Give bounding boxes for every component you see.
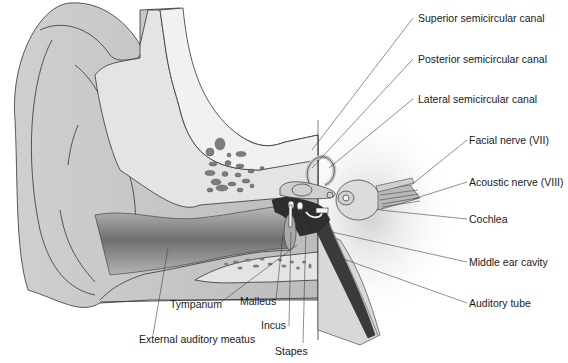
label-acoustic-nerve: Acoustic nerve (VIII) [469,176,564,188]
label-cochlea: Cochlea [469,213,508,225]
label-superior-semicircular-canal: Superior semicircular canal [418,12,545,24]
label-facial-nerve: Facial nerve (VII) [469,134,549,146]
label-lateral-semicircular-canal: Lateral semicircular canal [418,93,537,105]
label-malleus: Malleus [240,295,276,307]
label-auditory-tube: Auditory tube [469,297,531,309]
label-middle-ear-cavity: Middle ear cavity [469,256,548,268]
label-incus: Incus [261,319,286,331]
label-stapes: Stapes [275,345,308,357]
cochlea-shape [336,180,380,220]
label-external-auditory-meatus: External auditory meatus [139,333,255,345]
label-tympanum: Tympanum [170,298,222,310]
label-posterior-semicircular-canal: Posterior semicircular canal [418,53,547,65]
